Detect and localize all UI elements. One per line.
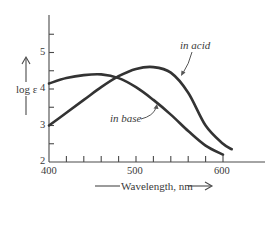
x-axis-label: Wavelength, nm	[121, 181, 193, 192]
x-tick-label-600: 600	[214, 166, 230, 177]
x-tick-label-400: 400	[41, 166, 57, 177]
x-ticks	[66, 156, 223, 162]
x-tick-label-500: 500	[127, 166, 143, 177]
acid-curve	[49, 67, 232, 149]
y-tick-label-5: 5	[40, 47, 45, 58]
acid-pointer-arrowhead	[181, 71, 186, 77]
acid-pointer-arrow	[183, 52, 192, 73]
base-annotation: in base	[110, 113, 141, 124]
base-pointer-arrow	[141, 108, 156, 119]
y-tick-label-4: 4	[40, 83, 45, 94]
y-tick-label-3: 3	[40, 120, 45, 131]
y-axis-label: log ε	[16, 84, 37, 95]
y-ticks	[49, 34, 54, 144]
acid-annotation: in acid	[180, 40, 210, 51]
